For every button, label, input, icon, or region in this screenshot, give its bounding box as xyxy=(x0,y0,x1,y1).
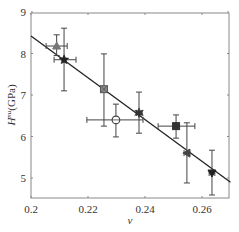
plot-frame xyxy=(31,13,229,198)
x-tick-labels: 0.20.220.240.26 xyxy=(24,203,212,215)
data-points xyxy=(46,28,216,195)
y-tick-label: 5 xyxy=(21,172,27,184)
x-tick-label: 0.22 xyxy=(78,203,97,215)
data-point xyxy=(183,123,190,183)
x-tick-label: 0.26 xyxy=(192,203,212,215)
axis-ticks xyxy=(31,12,229,198)
y-tick-labels: 56789 xyxy=(21,6,27,184)
scatter-chart: 0.20.220.240.26 56789 v Hnu(GPa) xyxy=(0,0,239,232)
y-axis-label-unit: (GPa) xyxy=(5,84,18,111)
data-point xyxy=(208,150,216,195)
y-tick-label: 8 xyxy=(21,48,27,60)
data-point xyxy=(158,115,195,138)
data-point xyxy=(135,92,144,133)
y-axis-label: Hnu(GPa) xyxy=(5,84,18,127)
data-point xyxy=(100,54,107,126)
square-marker xyxy=(173,123,180,130)
y-tick-label: 6 xyxy=(21,131,27,143)
y-tick-label: 7 xyxy=(21,89,27,101)
data-point xyxy=(54,28,76,91)
x-tick-label: 0.2 xyxy=(24,203,38,215)
x-tick-label: 0.24 xyxy=(135,203,155,215)
plot-area xyxy=(31,13,229,198)
data-point xyxy=(87,104,143,137)
y-tick-label: 9 xyxy=(21,6,27,18)
x-axis-label: v xyxy=(128,214,133,226)
